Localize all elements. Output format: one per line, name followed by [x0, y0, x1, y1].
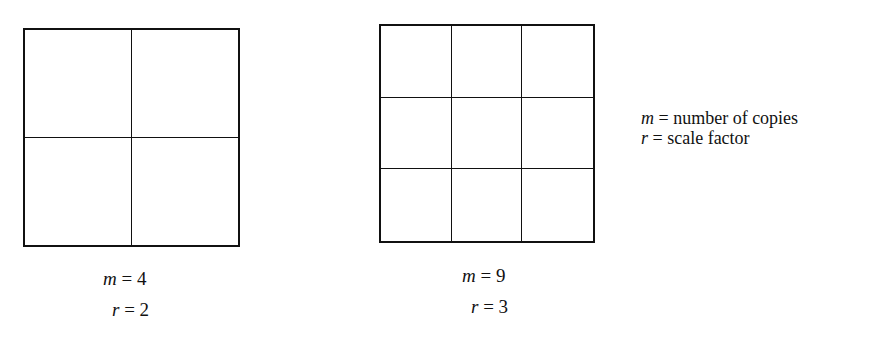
legend-m: m = number of copies	[641, 108, 798, 128]
legend-m-variable: m	[641, 108, 654, 128]
grid-3x3-m-label: m = 9	[462, 265, 505, 287]
grid-3x3-r-label: r = 3	[471, 296, 508, 318]
r-value: = 3	[478, 296, 508, 317]
m-value: = 9	[476, 265, 506, 286]
legend-r-variable: r	[641, 128, 648, 148]
legend-r: r = scale factor	[641, 128, 798, 148]
legend-m-text: = number of copies	[654, 108, 798, 128]
legend: m = number of copies r = scale factor	[641, 108, 798, 148]
grid-2x2-m-label: m = 4	[103, 268, 146, 290]
grid-cell	[381, 98, 452, 170]
grid-2x2-r-label: r = 2	[112, 299, 149, 321]
grid-cell	[452, 26, 523, 98]
r-value: = 2	[119, 299, 149, 320]
m-variable: m	[103, 268, 117, 289]
grid-cell	[381, 26, 452, 98]
grid-cell	[132, 30, 239, 138]
grid-cell	[452, 98, 523, 170]
m-value: = 4	[117, 268, 147, 289]
grid-cell	[25, 138, 132, 246]
grid-cell	[25, 30, 132, 138]
grid-cell	[452, 169, 523, 241]
m-variable: m	[462, 265, 476, 286]
grid-cell	[522, 98, 593, 170]
grid-cell	[381, 169, 452, 241]
grid-cell	[522, 169, 593, 241]
grid-cell	[132, 138, 239, 246]
grid-2x2	[23, 28, 240, 247]
grid-cell	[522, 26, 593, 98]
grid-3x3	[379, 24, 595, 243]
legend-r-text: = scale factor	[648, 128, 750, 148]
